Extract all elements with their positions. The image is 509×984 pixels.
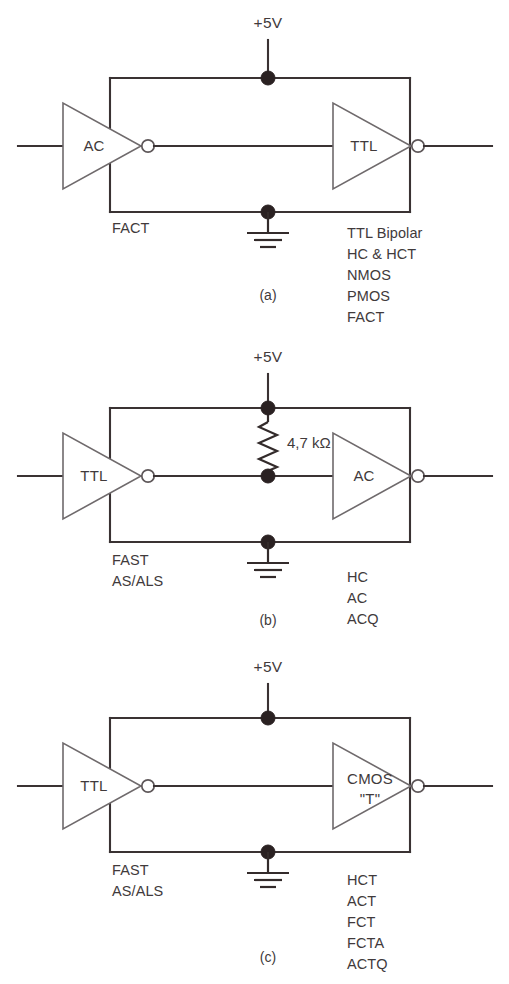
family-list-item: TTL Bipolar (347, 225, 423, 241)
driver-inverter-bubble (142, 140, 154, 152)
family-list-item: HCT (347, 872, 377, 888)
vcc-junction-dot (261, 711, 275, 725)
circuit-b-svg: +5V TTL 4,7 kΩ AC (0, 330, 509, 640)
panel-caption: (b) (259, 612, 276, 628)
family-list-item: FCTA (347, 935, 384, 951)
circuit-panel-a: +5V AC TTL (0, 0, 509, 330)
circuit-c-svg: +5V TTL CMOS "T" (0, 640, 509, 984)
load-gate-label-line1: CMOS (347, 770, 393, 787)
driver-inverter-bubble (142, 470, 154, 482)
driver-gate-label: TTL (80, 467, 107, 484)
driver-gate-label: AC (83, 137, 104, 154)
family-list-item: ACT (347, 893, 376, 909)
panel-caption: (c) (260, 949, 276, 965)
driver-gate-label: TTL (80, 777, 107, 794)
supply-label: +5V (254, 14, 283, 31)
family-list-item: FACT (347, 309, 384, 325)
family-list-item: NMOS (347, 267, 391, 283)
family-list-item: FCT (347, 914, 376, 930)
family-list-item: HC & HCT (347, 246, 416, 262)
supply-label: +5V (254, 658, 283, 675)
family-list-item: ACTQ (347, 956, 388, 972)
load-gate-label: TTL (350, 137, 377, 154)
load-inverter-bubble (412, 140, 424, 152)
family-list-item: AC (347, 590, 367, 606)
resistor-value-label: 4,7 kΩ (287, 434, 331, 451)
panel-caption: (a) (259, 287, 276, 303)
driver-inverter-bubble (142, 780, 154, 792)
signal-junction-dot (261, 469, 275, 483)
circuit-panel-b: +5V TTL 4,7 kΩ AC (0, 330, 509, 640)
left-note: FACT (112, 220, 149, 236)
circuit-panel-c: +5V TTL CMOS "T" (0, 640, 509, 984)
vcc-junction-dot (261, 401, 275, 415)
family-list-item: ACQ (347, 611, 379, 627)
supply-label: +5V (254, 348, 283, 365)
family-list-item: PMOS (347, 288, 390, 304)
load-gate-label: AC (353, 467, 374, 484)
load-inverter-bubble (412, 780, 424, 792)
pullup-resistor-zigzag (259, 422, 277, 471)
left-note-line2: AS/ALS (112, 573, 163, 589)
load-inverter-bubble (412, 470, 424, 482)
figure-canvas: +5V AC TTL (0, 0, 509, 984)
left-note-line1: FAST (112, 552, 149, 568)
left-note-line1: FAST (112, 862, 149, 878)
circuit-a-svg: +5V AC TTL (0, 0, 509, 330)
vcc-junction-dot (261, 71, 275, 85)
family-list-item: HC (347, 569, 368, 585)
load-gate-label-line2: "T" (360, 790, 380, 807)
left-note-line2: AS/ALS (112, 883, 163, 899)
